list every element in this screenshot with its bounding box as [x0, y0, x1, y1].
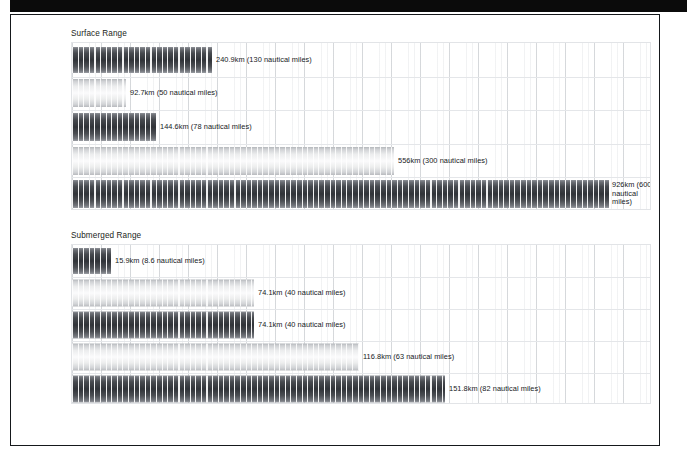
value-label-hecht: 144.6km (78 nautical miles): [160, 123, 252, 132]
table-row: British X-5 151.8km (82 nautical miles): [72, 373, 650, 404]
bar-molch: [72, 79, 126, 107]
table-row: British X-5 926km (600 nautical miles): [72, 177, 650, 210]
value-label-hecht: 74.1km (40 nautical miles): [258, 321, 346, 330]
plot-area-surface: Biber 240.9km (130 nautical miles) Molch…: [71, 42, 651, 210]
chart-surface-range: Surface Range Biber 240.9km (130 nautica…: [25, 29, 651, 217]
table-row: Seehund 116.8km (63 nautical miles): [72, 341, 650, 373]
chart-title-surface: Surface Range: [71, 29, 127, 38]
plot-area-submerged: Biber 15.9km (8.6 nautical miles) Molch …: [71, 244, 651, 404]
chart-submerged-range: Submerged Range Biber 15.9km (8.6 nautic…: [25, 231, 651, 413]
value-label-british-x5: 926km (600 nautical miles): [612, 181, 651, 207]
value-label-seehund: 556km (300 nautical miles): [398, 156, 488, 165]
table-row: Seehund 556km (300 nautical miles): [72, 144, 650, 178]
page-root: Surface Range Biber 240.9km (130 nautica…: [0, 0, 687, 462]
table-row: Biber 15.9km (8.6 nautical miles): [72, 245, 650, 277]
bar-hecht: [72, 113, 156, 141]
bar-biber: [72, 47, 212, 73]
bar-hecht: [72, 312, 254, 339]
table-row: Hecht 74.1km (40 nautical miles): [72, 309, 650, 341]
top-black-bar: [10, 0, 687, 12]
chart-title-submerged: Submerged Range: [71, 231, 141, 240]
table-row: Biber 240.9km (130 nautical miles): [72, 43, 650, 77]
table-row: Molch 74.1km (40 nautical miles): [72, 277, 650, 309]
bar-british-x5: [72, 376, 445, 403]
document-frame: Surface Range Biber 240.9km (130 nautica…: [10, 14, 660, 446]
value-label-biber: 240.9km (130 nautical miles): [216, 56, 312, 65]
value-label-molch: 92.7km (50 nautical miles): [130, 89, 218, 98]
table-row: Molch 92.7km (50 nautical miles): [72, 77, 650, 111]
bar-british-x5: [72, 180, 609, 208]
bar-biber: [72, 248, 111, 274]
table-row: Hecht 144.6km (78 nautical miles): [72, 110, 650, 144]
value-label-biber: 15.9km (8.6 nautical miles): [115, 257, 205, 266]
bar-seehund: [72, 147, 394, 175]
value-label-seehund: 116.8km (63 nautical miles): [363, 353, 454, 362]
bar-seehund: [72, 344, 359, 371]
bar-molch: [72, 280, 254, 307]
value-label-molch: 74.1km (40 nautical miles): [258, 289, 346, 298]
value-label-british-x5: 151.8km (82 nautical miles): [449, 385, 541, 394]
